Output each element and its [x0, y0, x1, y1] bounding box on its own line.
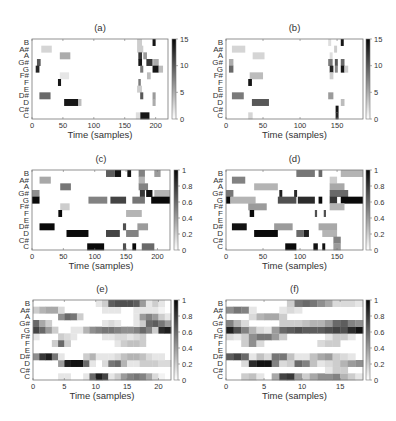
colorbar-tick-label: 0.4 [182, 214, 192, 223]
colorbar-tick-label: 0.4 [182, 344, 192, 353]
panel-title: (e) [96, 283, 108, 294]
heat-cell [133, 373, 140, 380]
heat-cell [287, 300, 295, 307]
heat-cell [232, 92, 244, 99]
heat-cell [60, 183, 71, 190]
heat-cell [317, 360, 325, 367]
heat-cell [333, 373, 341, 380]
heat-cell [58, 307, 65, 314]
heat-cell [226, 190, 233, 197]
heat-cell [341, 66, 345, 73]
panel-e: CC#DD#EFF#GG#AA#B05101520Time (samples)(… [19, 283, 192, 401]
heat-cell [121, 353, 128, 360]
heat-cell [234, 333, 242, 340]
heat-cell [152, 313, 159, 320]
heat-cell [340, 300, 348, 307]
heat-cell [226, 353, 234, 360]
heat-cell [264, 313, 272, 320]
heat-cell [336, 106, 339, 113]
heat-cell [151, 197, 170, 204]
heat-cell [325, 373, 333, 380]
heat-cell [325, 353, 333, 360]
heat-cell [127, 353, 134, 360]
heat-cell [226, 333, 234, 340]
heat-cell [33, 307, 40, 314]
panel-title: (a) [94, 22, 106, 33]
heat-cell [146, 190, 152, 197]
heat-cell [36, 66, 40, 73]
heat-cell [234, 307, 242, 314]
colorbar-tick-label: 0.8 [182, 312, 192, 321]
colorbar-tick-label: 5 [374, 88, 378, 97]
heat-cell [138, 59, 142, 66]
heat-cell [126, 230, 139, 237]
heat-cell [256, 333, 264, 340]
x-tick-label: 50 [59, 121, 67, 130]
heat-cell [249, 340, 257, 347]
colorbar [172, 39, 176, 119]
heat-cell [274, 223, 293, 230]
heat-cell [248, 112, 252, 119]
heat-cell [295, 373, 303, 380]
heat-cell [126, 210, 142, 217]
heat-cell [159, 66, 163, 73]
heat-cell [319, 170, 323, 177]
x-tick-label: 200 [149, 121, 162, 130]
heat-cell [256, 340, 264, 347]
heat-cell [279, 333, 287, 340]
heat-cell [33, 353, 40, 360]
panel-title: (f) [290, 283, 299, 294]
colorbar-tick-label: 0.6 [374, 328, 384, 337]
heat-cell [241, 360, 249, 367]
y-tick-label: B [24, 169, 29, 178]
heat-cell [102, 360, 109, 367]
panel-d: CC#DD#EFF#GG#AA#B050100150Time (samples)… [212, 153, 384, 271]
colorbar-tick-label: 1 [182, 166, 186, 175]
colorbar-tick-label: 0.6 [182, 198, 192, 207]
heat-cell [253, 52, 265, 59]
heat-cell [133, 333, 140, 340]
heat-cell [140, 320, 147, 327]
colorbar-tick-label: 0.6 [374, 198, 384, 207]
heat-cell [71, 327, 78, 334]
heat-cell [333, 300, 341, 307]
heat-cell [110, 197, 126, 204]
x-tick-label: 20 [154, 382, 162, 391]
heat-cell [154, 190, 170, 197]
heat-cell [341, 39, 344, 46]
heat-cell [264, 327, 272, 334]
heat-cell [333, 320, 341, 327]
heat-cell [115, 333, 122, 340]
heat-cell [254, 183, 278, 190]
heat-cell [133, 307, 140, 314]
heat-cell [52, 307, 59, 314]
heat-cell [140, 353, 147, 360]
heat-cell [33, 320, 40, 327]
heat-cell [294, 190, 297, 197]
heat-cell [355, 373, 363, 380]
heat-cell [108, 327, 115, 334]
heat-cell [279, 373, 287, 380]
heat-cell [241, 373, 249, 380]
x-axis-label: Time (samples) [68, 260, 133, 271]
heat-cell [152, 307, 159, 314]
heat-cell [348, 327, 356, 334]
heat-cell [102, 300, 109, 307]
heat-cell [39, 307, 46, 314]
heat-cell [279, 360, 287, 367]
heat-cell [310, 300, 318, 307]
heat-cell [325, 320, 333, 327]
heat-cell [341, 170, 363, 177]
heat-cell [140, 66, 143, 73]
heat-cell [256, 360, 264, 367]
heat-cell [96, 300, 103, 307]
x-tick-label: 0 [224, 382, 228, 391]
heat-cell [317, 353, 325, 360]
heat-cell [127, 333, 134, 340]
heat-cell [77, 313, 84, 320]
heat-cell [334, 46, 337, 53]
heat-cell [229, 59, 233, 66]
heat-cell [133, 353, 140, 360]
heat-cell [158, 307, 165, 314]
colorbar-tick-label: 1 [182, 296, 186, 305]
